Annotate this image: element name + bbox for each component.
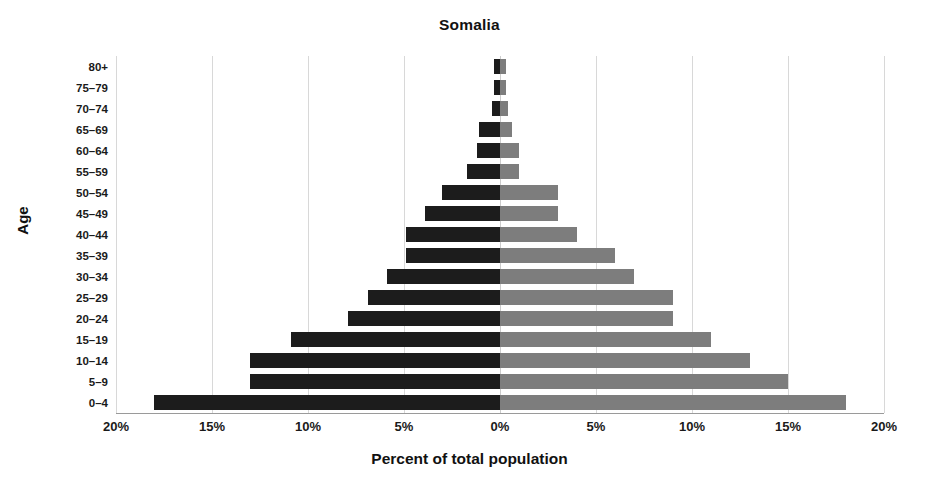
bar-male — [368, 290, 500, 305]
y-tick-label: 30–34 — [18, 267, 108, 287]
x-axis-line — [116, 413, 884, 414]
bar-female — [500, 164, 519, 179]
bar-row — [116, 183, 884, 203]
bar-male — [406, 248, 500, 263]
bar-row — [116, 393, 884, 413]
y-tick-label: 45–49 — [18, 204, 108, 224]
bar-male — [387, 269, 500, 284]
bar-row — [116, 351, 884, 371]
bar-male — [291, 332, 500, 347]
bar-female — [500, 374, 788, 389]
bar-row — [116, 246, 884, 266]
x-tick-label: 10% — [662, 419, 722, 434]
y-tick-label: 55–59 — [18, 162, 108, 182]
y-axis-tick-labels: 80+75–7970–7465–6960–6455–5950–5445–4940… — [10, 56, 108, 413]
x-tick-label: 15% — [758, 419, 818, 434]
x-tick-label: 10% — [278, 419, 338, 434]
plot-area — [116, 56, 884, 413]
y-tick-label: 15–19 — [18, 330, 108, 350]
bar-female — [500, 395, 846, 410]
y-tick-label: 35–39 — [18, 246, 108, 266]
bar-row — [116, 57, 884, 77]
bar-female — [500, 206, 558, 221]
y-tick-label: 5–9 — [18, 372, 108, 392]
x-tick-label: 0% — [470, 419, 530, 434]
x-tick-label: 15% — [182, 419, 242, 434]
bar-female — [500, 311, 673, 326]
chart-title: Somalia — [0, 16, 939, 34]
bar-male — [492, 101, 500, 116]
bar-row — [116, 99, 884, 119]
bar-male — [467, 164, 500, 179]
bar-row — [116, 141, 884, 161]
bar-male — [348, 311, 500, 326]
bar-female — [500, 227, 577, 242]
bar-row — [116, 267, 884, 287]
bar-female — [500, 353, 750, 368]
bar-row — [116, 78, 884, 98]
bar-row — [116, 288, 884, 308]
bar-male — [250, 374, 500, 389]
y-tick-label: 65–69 — [18, 120, 108, 140]
bar-male — [477, 143, 500, 158]
bar-row — [116, 225, 884, 245]
y-tick-label: 50–54 — [18, 183, 108, 203]
bar-row — [116, 120, 884, 140]
bar-male — [154, 395, 500, 410]
bar-row — [116, 330, 884, 350]
x-tick-label: 5% — [566, 419, 626, 434]
x-tick-label: 20% — [854, 419, 914, 434]
bar-row — [116, 372, 884, 392]
y-tick-label: 10–14 — [18, 351, 108, 371]
bar-male — [442, 185, 500, 200]
x-axis-tick-labels: 20%15%10%5%0%5%10%15%20% — [116, 419, 884, 441]
bar-female — [500, 290, 673, 305]
x-axis-title: Percent of total population — [0, 450, 939, 468]
bar-male — [406, 227, 500, 242]
bar-male — [479, 122, 500, 137]
bar-female — [500, 122, 512, 137]
y-tick-label: 80+ — [18, 57, 108, 77]
bar-row — [116, 309, 884, 329]
x-tick-label: 20% — [86, 419, 146, 434]
bar-male — [250, 353, 500, 368]
bar-female — [500, 269, 634, 284]
bar-row — [116, 204, 884, 224]
y-tick-label: 70–74 — [18, 99, 108, 119]
bar-female — [500, 59, 506, 74]
bar-female — [500, 143, 519, 158]
y-tick-label: 25–29 — [18, 288, 108, 308]
bar-female — [500, 80, 506, 95]
bar-male — [425, 206, 500, 221]
bar-row — [116, 162, 884, 182]
gridline — [884, 56, 885, 413]
y-tick-label: 20–24 — [18, 309, 108, 329]
x-tick-label: 5% — [374, 419, 434, 434]
y-tick-label: 60–64 — [18, 141, 108, 161]
bar-female — [500, 332, 711, 347]
bar-female — [500, 248, 615, 263]
y-tick-label: 75–79 — [18, 78, 108, 98]
bar-female — [500, 185, 558, 200]
y-tick-label: 40–44 — [18, 225, 108, 245]
bar-female — [500, 101, 508, 116]
population-pyramid-chart: Somalia Age 80+75–7970–7465–6960–6455–59… — [0, 0, 939, 482]
y-tick-label: 0–4 — [18, 393, 108, 413]
